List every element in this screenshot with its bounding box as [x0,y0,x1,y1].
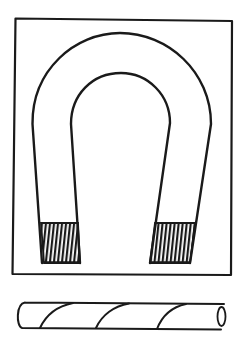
rod-spiral-stripe-3 [157,304,186,329]
horseshoe-magnet [32,33,211,263]
rod-spiral-stripe-1 [40,303,73,328]
rod-spiral-stripe-2 [96,304,129,329]
right-pole [150,223,195,263]
iron-rod [18,303,226,330]
left-pole [41,223,80,263]
rod-end-cap [218,307,226,326]
diagram-stage [0,0,240,363]
diagram-canvas [0,0,240,363]
